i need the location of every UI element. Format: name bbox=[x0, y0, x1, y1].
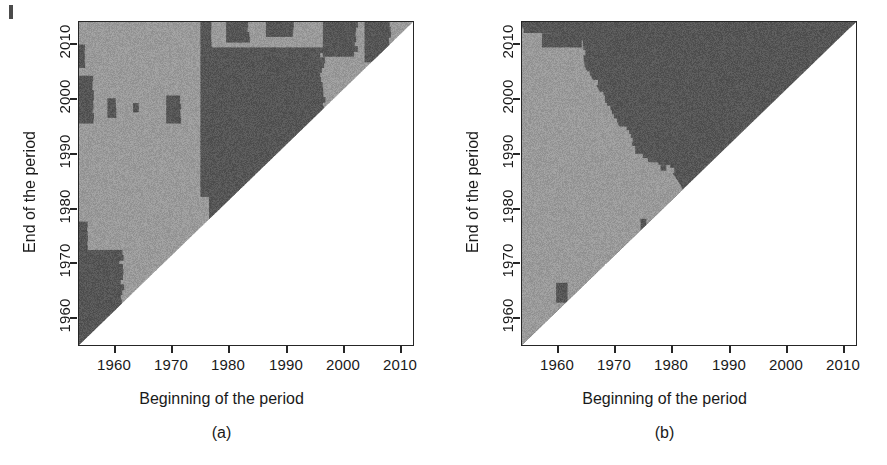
ytick-label-1980: 1980 bbox=[47, 198, 81, 215]
xtick-label-1980: 1980 bbox=[211, 356, 245, 373]
ytick-label-1960: 1960 bbox=[490, 307, 524, 324]
xtick-label-2000: 2000 bbox=[326, 356, 360, 373]
x-axis-title-a: Beginning of the period bbox=[0, 390, 443, 408]
xtick-mark-0 bbox=[557, 346, 559, 353]
xtick-mark-4 bbox=[786, 346, 788, 353]
panel-a: 1960 1970 1980 1990 2000 2010 1960 1970 … bbox=[0, 0, 443, 465]
panel-b: 1960 1970 1980 1990 2000 2010 1960 1970 … bbox=[443, 0, 887, 465]
ytick-text-1970: 1970 bbox=[499, 243, 516, 277]
ytick-label-2000: 2000 bbox=[47, 88, 81, 105]
ytick-text-2010: 2010 bbox=[56, 24, 73, 58]
xtick-label-1990: 1990 bbox=[712, 356, 746, 373]
xtick-label-2010: 2010 bbox=[383, 356, 417, 373]
xtick-label-1990: 1990 bbox=[269, 356, 303, 373]
xtick-mark-5 bbox=[843, 346, 845, 353]
xtick-mark-1 bbox=[171, 346, 173, 353]
ytick-label-1960: 1960 bbox=[47, 307, 81, 324]
ytick-label-2000: 2000 bbox=[490, 88, 524, 105]
ytick-text-2000: 2000 bbox=[499, 79, 516, 113]
ytick-text-1990: 1990 bbox=[499, 134, 516, 168]
xtick-mark-2 bbox=[671, 346, 673, 353]
y-axis-title-b: End of the period bbox=[464, 102, 482, 282]
xtick-mark-4 bbox=[343, 346, 345, 353]
ytick-text-2000: 2000 bbox=[56, 79, 73, 113]
ytick-text-1970: 1970 bbox=[56, 243, 73, 277]
xtick-mark-1 bbox=[614, 346, 616, 353]
xtick-label-1980: 1980 bbox=[654, 356, 688, 373]
xtick-label-1960: 1960 bbox=[97, 356, 131, 373]
plot-area-a bbox=[78, 21, 414, 346]
xtick-mark-3 bbox=[286, 346, 288, 353]
ytick-label-1990: 1990 bbox=[490, 143, 524, 160]
figure-root: 1960 1970 1980 1990 2000 2010 1960 1970 … bbox=[0, 0, 887, 465]
xtick-label-2000: 2000 bbox=[769, 356, 803, 373]
xtick-mark-0 bbox=[114, 346, 116, 353]
xtick-label-1970: 1970 bbox=[154, 356, 188, 373]
ytick-label-1990: 1990 bbox=[47, 143, 81, 160]
xtick-label-1970: 1970 bbox=[597, 356, 631, 373]
ytick-text-1980: 1980 bbox=[56, 189, 73, 223]
xtick-label-1960: 1960 bbox=[540, 356, 574, 373]
ytick-label-2010: 2010 bbox=[47, 33, 81, 50]
heatmap-raster-b bbox=[522, 22, 856, 345]
ytick-label-1970: 1970 bbox=[490, 252, 524, 269]
xtick-mark-3 bbox=[729, 346, 731, 353]
x-axis-title-b: Beginning of the period bbox=[443, 390, 886, 408]
xtick-mark-2 bbox=[228, 346, 230, 353]
ytick-label-1970: 1970 bbox=[47, 252, 81, 269]
plot-area-b bbox=[521, 21, 857, 346]
panel-caption-a: (a) bbox=[0, 424, 443, 442]
ytick-text-1960: 1960 bbox=[56, 298, 73, 332]
ytick-label-2010: 2010 bbox=[490, 33, 524, 50]
ytick-text-2010: 2010 bbox=[499, 24, 516, 58]
xtick-label-2010: 2010 bbox=[826, 356, 860, 373]
ytick-text-1980: 1980 bbox=[499, 189, 516, 223]
ytick-label-1980: 1980 bbox=[490, 198, 524, 215]
y-axis-title-a: End of the period bbox=[21, 102, 39, 282]
ytick-text-1990: 1990 bbox=[56, 134, 73, 168]
panel-caption-b: (b) bbox=[443, 424, 886, 442]
ytick-text-1960: 1960 bbox=[499, 298, 516, 332]
xtick-mark-5 bbox=[400, 346, 402, 353]
heatmap-raster-a bbox=[79, 22, 413, 345]
